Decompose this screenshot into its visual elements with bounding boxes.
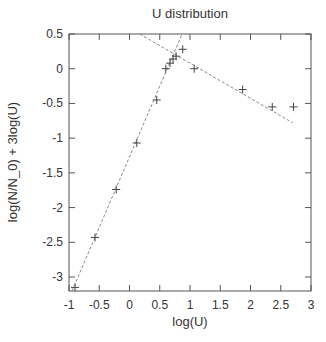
data-markers	[71, 45, 297, 291]
data-point-marker	[112, 186, 120, 194]
chart: U distribution -1-0.500.511.522.53 0.50-…	[0, 0, 326, 342]
x-tick-label: 2.5	[272, 298, 289, 312]
y-tick-label: -3	[52, 270, 63, 284]
y-tick-label: -1	[52, 131, 63, 145]
data-point-marker	[179, 45, 187, 53]
y-tick-label: -2.5	[42, 235, 63, 249]
x-tick-label: 0	[126, 298, 133, 312]
x-tick-label: 1.5	[212, 298, 229, 312]
x-tick-label: -0.5	[89, 298, 110, 312]
data-point-marker	[190, 65, 198, 73]
data-point-marker	[162, 65, 170, 73]
x-tick-label: 0.5	[151, 298, 168, 312]
fit-lines	[72, 34, 293, 291]
x-tick-label: 3	[308, 298, 315, 312]
y-axis-label: log(N/N_0) + 3log(U)	[5, 102, 20, 222]
data-point-marker	[91, 233, 99, 241]
y-tick-label: 0.5	[46, 27, 63, 41]
plot-border	[69, 34, 311, 291]
x-tick-label: 1	[187, 298, 194, 312]
y-tick-label: -1.5	[42, 166, 63, 180]
y-tick-label: -2	[52, 201, 63, 215]
data-point-marker	[153, 96, 161, 104]
x-tick-label: -1	[64, 298, 75, 312]
y-tick-label: -0.5	[42, 96, 63, 110]
chart-title: U distribution	[152, 6, 228, 21]
x-axis-label: log(U)	[172, 314, 207, 329]
y-tick-label: 0	[56, 62, 63, 76]
data-point-marker	[289, 103, 297, 111]
x-axis-ticks: -1-0.500.511.522.53	[64, 34, 315, 312]
y-axis-ticks: 0.50-0.5-1-1.5-2-2.5-3	[42, 27, 311, 284]
plot-frame	[69, 34, 311, 291]
x-tick-label: 2	[247, 298, 254, 312]
